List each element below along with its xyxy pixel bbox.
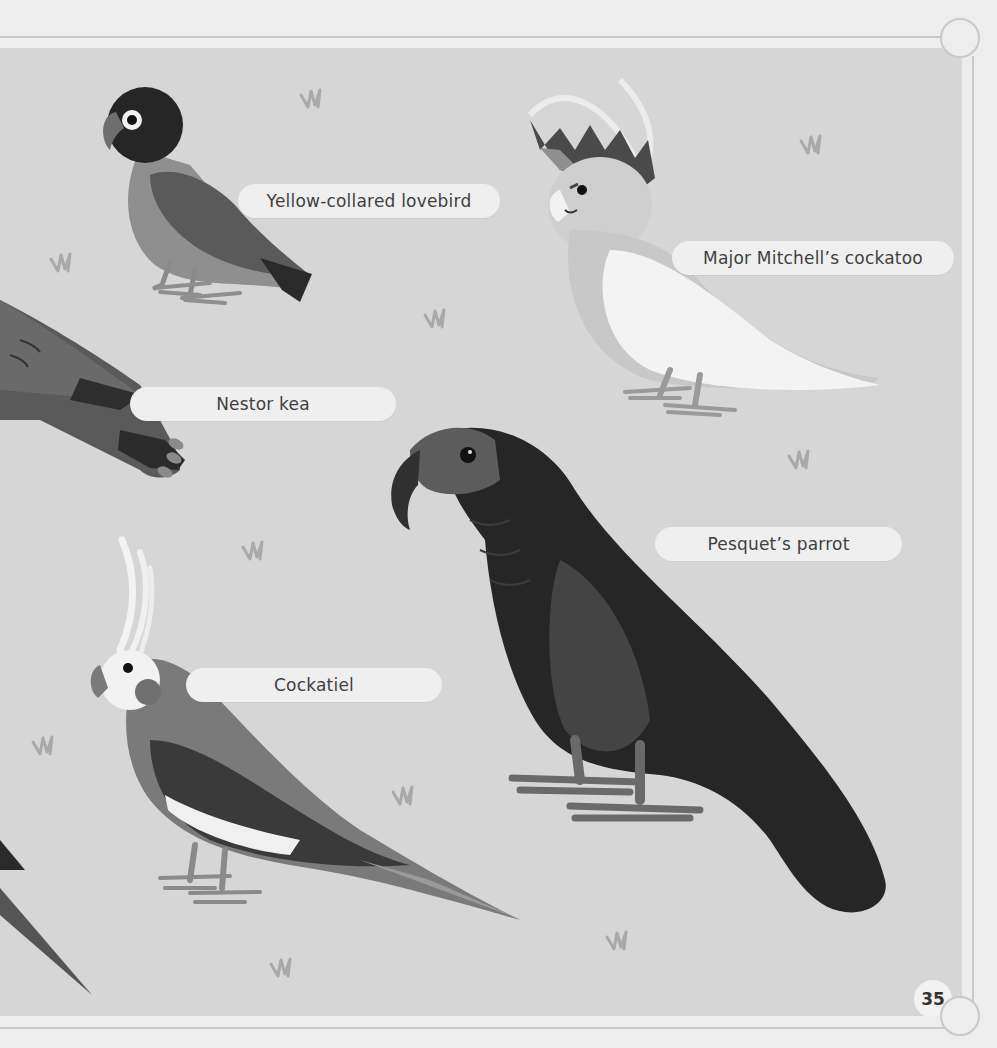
label-pesquets-parrot: Pesquet’s parrot (655, 527, 902, 561)
label-yellow-collared-lovebird: Yellow-collared lovebird (238, 184, 500, 218)
label-cockatiel: Cockatiel (186, 668, 442, 702)
frame-bottom-line (0, 1027, 958, 1029)
frame-corner-bottom-right (940, 996, 980, 1036)
frame-right-line (972, 56, 974, 1011)
pesquets-parrot-illustration (391, 428, 886, 913)
cockatiel-illustration (91, 540, 522, 920)
label-major-mitchells-cockatoo: Major Mitchell’s cockatoo (672, 241, 954, 275)
frame-top-line (0, 36, 958, 38)
illustration-panel: Yellow-collared lovebird Major Mitchell’… (0, 48, 962, 1016)
frame-corner-top-right (940, 18, 980, 58)
book-page: Yellow-collared lovebird Major Mitchell’… (0, 0, 997, 1048)
label-nestor-kea: Nestor kea (130, 387, 396, 421)
partial-bird-bottom-left (0, 840, 92, 995)
